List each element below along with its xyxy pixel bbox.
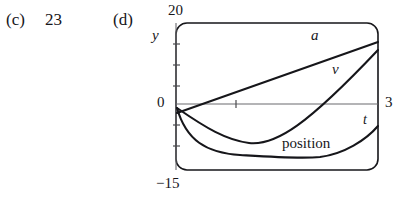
acceleration-curve-label: a [311,28,319,43]
y-min-tick-label: −15 [156,176,179,191]
part-c-answer: 23 [45,11,62,28]
velocity-acceleration-position-figure: 20 y 0 −15 3 t a v position [0,0,403,201]
t-max-tick-label: 3 [385,95,393,110]
velocity-curve [177,50,378,143]
position-curve [177,108,378,158]
position-curve-label: position [282,136,330,151]
y-axis-title: y [152,28,159,43]
t-axis-title: t [363,113,367,127]
acceleration-curve [177,42,378,113]
velocity-curve-label: v [332,62,339,77]
part-d-tag: (d) [113,11,133,28]
part-c-tag: (c) [6,11,25,28]
plot-canvas [0,0,403,201]
y-zero-tick-label: 0 [157,95,165,110]
y-max-tick-label: 20 [168,3,183,18]
